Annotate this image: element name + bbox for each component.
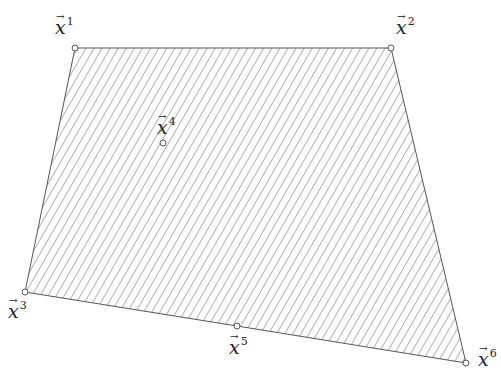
vector-arrow-icon: → — [9, 296, 16, 306]
vector-arrow-icon: → — [397, 12, 404, 22]
hatched-polygon-diagram — [0, 0, 501, 375]
vertex-point-x5 — [234, 323, 240, 329]
point-label-index: 6 — [490, 347, 497, 360]
point-label-x3: →x3 — [8, 302, 26, 321]
vector-arrow-icon: → — [230, 332, 237, 342]
point-label-index: 4 — [169, 115, 176, 128]
point-label-x1: →x1 — [55, 18, 73, 37]
vector-arrow-icon: → — [479, 344, 486, 354]
point-label-x2: →x2 — [396, 18, 414, 37]
convex-hull-polygon — [25, 48, 466, 363]
point-label-x5: →x5 — [229, 338, 247, 357]
point-label-x4: →x4 — [157, 118, 175, 137]
point-label-x6: →x6 — [478, 350, 496, 369]
vertex-point-x4 — [160, 140, 166, 146]
vector-arrow-icon: → — [56, 12, 63, 22]
vertex-point-x2 — [388, 45, 394, 51]
vertex-point-x1 — [72, 45, 78, 51]
vertex-point-x6 — [463, 360, 469, 366]
vector-arrow-icon: → — [158, 112, 165, 122]
point-label-index: 3 — [20, 299, 27, 312]
point-label-index: 1 — [67, 15, 74, 28]
point-label-index: 2 — [408, 15, 415, 28]
point-label-index: 5 — [241, 335, 248, 348]
vertex-point-x3 — [22, 289, 28, 295]
